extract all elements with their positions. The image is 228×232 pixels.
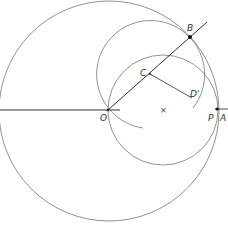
point-o [107,109,110,112]
center-mark-x: × [160,106,167,115]
label-p: P [208,113,214,123]
label-o: O [100,113,107,123]
point-a [216,108,219,111]
label-d-prime: D' [190,89,199,99]
geometric-diagram: B C D' O P A × [0,0,228,232]
point-c [149,73,151,75]
label-b: B [187,23,193,33]
point-b [188,35,192,39]
label-a: A [219,113,226,123]
label-c: C [140,68,147,78]
line-c-dprime [150,74,192,98]
